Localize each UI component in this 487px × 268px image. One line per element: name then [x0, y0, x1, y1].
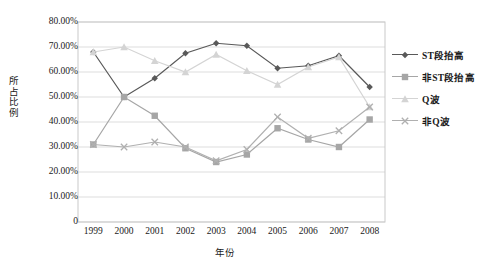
data-point-marker — [274, 125, 280, 131]
data-point-marker — [336, 144, 342, 150]
data-point-marker — [243, 67, 251, 74]
x-axis-tick: 2008 — [350, 226, 390, 236]
y-axis-tick: 50.00% — [16, 91, 78, 101]
series-3 — [90, 43, 374, 110]
data-point-marker — [402, 118, 408, 124]
series-4 — [90, 104, 373, 164]
legend-marker-icon — [392, 49, 418, 61]
y-axis-tick: 0 — [16, 216, 78, 226]
y-axis-tick: 40.00% — [16, 116, 78, 126]
line-chart: 所占比例 80.00%70.00%60.00%50.00%40.00%30.00… — [0, 0, 487, 268]
legend-label: 非Q波 — [418, 114, 450, 128]
y-axis-tick: 10.00% — [16, 191, 78, 201]
series-line — [93, 97, 369, 162]
legend-label: ST段抬高 — [418, 48, 465, 62]
data-point-marker — [274, 114, 280, 120]
data-point-marker — [152, 113, 158, 119]
legend-swatch-triangle-icon — [392, 93, 418, 105]
y-axis-tick-labels: 80.00%70.00%60.00%50.00%40.00%30.00%20.0… — [16, 0, 78, 268]
legend-item[interactable]: 非Q波 — [392, 110, 487, 132]
data-point-marker — [274, 81, 282, 88]
x-axis-title: 年份 — [180, 245, 270, 259]
y-axis-tick: 20.00% — [16, 166, 78, 176]
legend-marker-icon — [392, 71, 418, 83]
series-line — [93, 107, 369, 161]
y-axis-tick: 60.00% — [16, 66, 78, 76]
data-point-marker — [402, 74, 408, 80]
series-line — [93, 47, 369, 107]
legend-item[interactable]: ST段抬高 — [392, 44, 487, 66]
legend-marker-icon — [392, 115, 418, 127]
chart-legend: ST段抬高非ST段抬高Q波非Q波 — [392, 44, 487, 132]
series-1 — [90, 40, 373, 100]
y-axis-tick: 70.00% — [16, 41, 78, 51]
legend-label: 非ST段抬高 — [418, 70, 475, 84]
legend-item[interactable]: 非ST段抬高 — [392, 66, 487, 88]
data-point-marker — [402, 52, 408, 58]
legend-swatch-cross-icon — [392, 115, 418, 127]
data-point-marker — [121, 94, 127, 100]
legend-swatch-diamond-icon — [392, 49, 418, 61]
data-point-marker — [366, 116, 372, 122]
data-point-marker — [151, 57, 159, 64]
legend-label: Q波 — [418, 92, 440, 106]
legend-swatch-square-icon — [392, 71, 418, 83]
data-point-marker — [212, 51, 220, 58]
legend-item[interactable]: Q波 — [392, 88, 487, 110]
y-axis-tick: 30.00% — [16, 141, 78, 151]
y-axis-tick: 80.00% — [16, 16, 78, 26]
data-point-marker — [213, 40, 219, 46]
data-point-marker — [401, 95, 409, 102]
legend-marker-icon — [392, 93, 418, 105]
